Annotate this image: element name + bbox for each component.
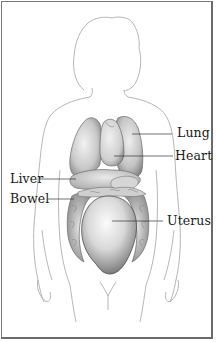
label-bowel: Bowel — [10, 193, 49, 206]
organs — [67, 116, 149, 274]
label-heart: Heart — [175, 150, 212, 163]
label-liver: Liver — [10, 173, 43, 186]
label-lung: Lung — [177, 127, 210, 140]
label-uterus: Uterus — [167, 215, 211, 228]
